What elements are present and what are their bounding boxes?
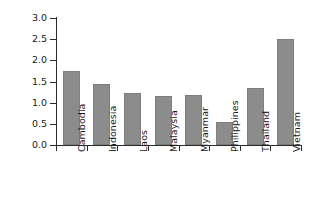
y-tick-label: 0.0 [32, 138, 47, 151]
x-tick-label: Laos [138, 130, 149, 152]
x-tick [240, 146, 241, 151]
x-tick-label: Philippines [229, 100, 240, 152]
y-tick-label: 3.0 [32, 11, 47, 24]
y-tick-label: 2.0 [32, 53, 47, 66]
x-tick-label: Vietnam [291, 112, 302, 152]
x-tick-label: Malaysia [168, 110, 179, 152]
x-tick-label: Cambodia [76, 104, 87, 152]
x-tick [179, 146, 180, 151]
x-tick-label: Myanmar [199, 107, 210, 152]
x-tick-label: Indonesia [107, 106, 118, 152]
x-tick [87, 146, 88, 151]
x-tick-label: Thailand [260, 111, 271, 152]
y-tick-label: 0.5 [32, 117, 47, 130]
y-tick-label: 2.5 [32, 32, 47, 45]
bar-chart: Poverty reduction 0.00.51.01.52.02.53.0 … [0, 0, 313, 214]
y-tick-label: 1.5 [32, 75, 47, 88]
x-tick [56, 146, 57, 151]
y-tick-label: 1.0 [32, 96, 47, 109]
